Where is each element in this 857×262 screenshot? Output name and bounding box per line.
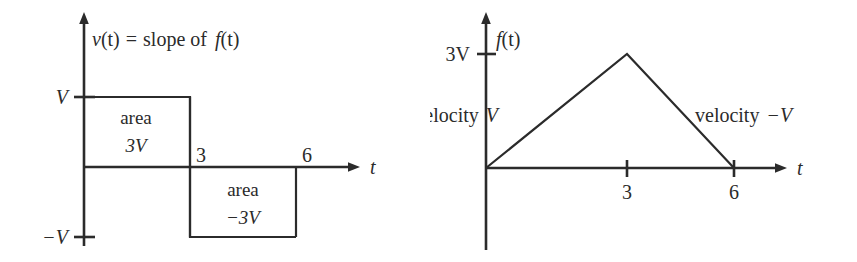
velocity-xtick-label-3: 3 [196, 144, 206, 166]
velocity-negative-text: velocity [695, 104, 759, 127]
title-f-arg: (t) [221, 28, 240, 51]
velocity-area-positive-line1: area [120, 107, 152, 128]
position-chart-svg: 3V f(t) 3 6 t velocityV velocity−V [430, 0, 857, 262]
position-chart-panel: 3V f(t) 3 6 t velocityV velocity−V [430, 0, 857, 262]
position-xtick-label-6: 6 [729, 181, 739, 203]
velocity-xtick-label-6: 6 [302, 144, 312, 166]
velocity-chart-svg: V −V 3 6 t v(t)=slope off(t) area 3V are… [0, 0, 430, 262]
position-annotation-velocity-negative: velocity−V [695, 104, 795, 127]
title-slope-of: slope of [143, 28, 207, 51]
velocity-label-V: V [56, 86, 71, 108]
title-v-var: v [92, 28, 101, 50]
position-t-axis-arrow-icon [775, 163, 787, 173]
position-curve-label: f(t) [496, 28, 520, 51]
title-v-arg: (t) [101, 28, 120, 51]
position-curve-label-arg: (t) [502, 28, 521, 51]
velocity-positive-text: velocity [430, 104, 479, 127]
velocity-area-negative-line2: −3V [226, 207, 262, 228]
title-equals: = [126, 28, 137, 50]
velocity-label-negative-V: −V [42, 226, 70, 248]
velocity-area-negative-line1: area [227, 179, 259, 200]
velocity-area-positive-line2: 3V [124, 135, 149, 156]
velocity-negative-value: −V [766, 104, 794, 126]
figure-container: V −V 3 6 t v(t)=slope off(t) area 3V are… [0, 0, 857, 262]
velocity-t-axis-arrow-icon [348, 162, 360, 172]
position-label-3V: 3V [446, 43, 471, 65]
position-y-axis-arrow-icon [481, 12, 491, 24]
velocity-y-axis-arrow-icon [79, 12, 89, 24]
position-t-axis-label: t [797, 157, 803, 179]
position-xtick-label-3: 3 [622, 181, 632, 203]
position-annotation-velocity-positive: velocityV [430, 104, 501, 127]
velocity-chart-panel: V −V 3 6 t v(t)=slope off(t) area 3V are… [0, 0, 430, 262]
velocity-chart-title: v(t)=slope off(t) [92, 28, 239, 51]
velocity-t-axis-label: t [370, 156, 376, 178]
velocity-positive-value: V [486, 104, 501, 126]
position-label-3V-num: 3V [446, 43, 471, 65]
